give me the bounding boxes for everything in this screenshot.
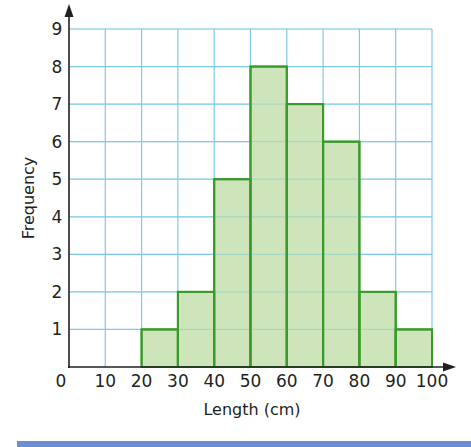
y-tick-label: 4 xyxy=(52,207,63,227)
x-tick-label: 50 xyxy=(240,371,262,391)
x-tick-labels: 102030405060708090100 xyxy=(94,371,448,391)
histogram-bar xyxy=(396,329,432,367)
x-tick-label: 60 xyxy=(276,371,298,391)
y-tick-label: 8 xyxy=(52,57,63,77)
page-divider-bar xyxy=(17,441,471,447)
histogram-chart: 102030405060708090100 123456789 0 Length… xyxy=(0,0,471,447)
x-axis-title: Length (cm) xyxy=(203,400,300,419)
x-tick-label: 70 xyxy=(312,371,334,391)
x-tick-label: 10 xyxy=(94,371,116,391)
y-tick-label: 2 xyxy=(52,282,63,302)
x-tick-label: 30 xyxy=(167,371,189,391)
y-tick-label: 9 xyxy=(52,19,63,39)
histogram-bars xyxy=(69,29,432,367)
x-tick-label: 100 xyxy=(416,371,448,391)
y-axis-title: Frequency xyxy=(19,157,38,240)
histogram-bar xyxy=(287,104,323,367)
y-tick-label: 6 xyxy=(52,132,63,152)
x-tick-label: 90 xyxy=(385,371,407,391)
x-tick-label: 80 xyxy=(349,371,371,391)
x-tick-label: 40 xyxy=(203,371,225,391)
y-tick-label: 5 xyxy=(52,169,63,189)
y-tick-label: 3 xyxy=(52,244,63,264)
y-axis-arrow-icon xyxy=(65,4,74,17)
y-tick-labels: 123456789 xyxy=(52,19,63,339)
histogram-bar xyxy=(214,179,250,367)
histogram-bar xyxy=(142,329,178,367)
origin-label: 0 xyxy=(56,371,67,391)
y-tick-label: 7 xyxy=(52,94,63,114)
y-tick-label: 1 xyxy=(52,319,63,339)
x-tick-label: 20 xyxy=(131,371,153,391)
